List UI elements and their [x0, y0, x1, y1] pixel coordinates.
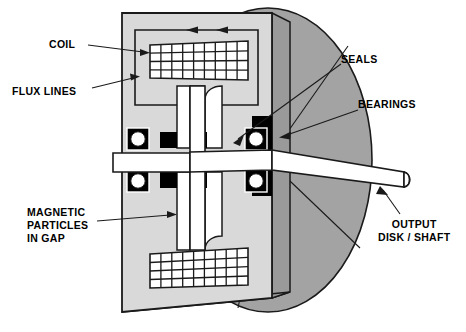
label-seals: SEALS [341, 53, 378, 66]
bearing-lower-left [127, 170, 149, 192]
label-coil: COIL [49, 38, 75, 51]
lower-coil-winding [150, 248, 248, 288]
label-output-disk-shaft: OUTPUT DISK / SHAFT [378, 218, 450, 244]
bearing-lower-right [245, 170, 267, 192]
label-magnetic-particles-in-gap: MAGNETIC PARTICLES IN GAP [27, 206, 88, 245]
seal-lower-left [160, 172, 177, 188]
upper-coil-winding [150, 41, 248, 80]
seal-upper-left [160, 132, 177, 148]
bearing-upper-left [127, 128, 149, 150]
label-flux-lines: FLUX LINES [12, 85, 76, 98]
label-bearings: BEARINGS [358, 98, 416, 111]
diagram-canvas: COIL FLUX LINES SEALS BEARINGS MAGNETIC … [0, 0, 466, 332]
